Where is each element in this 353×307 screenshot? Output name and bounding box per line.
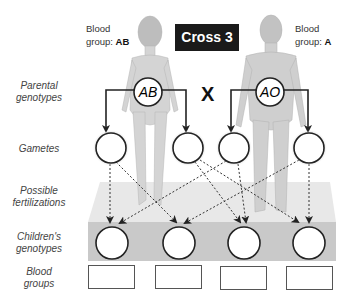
gamete-slot-4[interactable] — [297, 141, 321, 155]
cross-title: Cross 3 — [175, 24, 239, 51]
gamete-slot-1[interactable] — [99, 141, 123, 155]
mother-genotype: AB — [134, 84, 162, 100]
label-line: group: A — [295, 35, 331, 48]
gamete-slot-3[interactable] — [222, 141, 246, 155]
father-blood-label: Blood group: A — [295, 22, 331, 48]
label-prefix: group: — [295, 36, 325, 47]
label-line: group: AB — [86, 35, 129, 48]
label-prefix: group: — [86, 36, 116, 47]
blood-group-box-2[interactable] — [155, 265, 202, 289]
platform-top — [88, 182, 336, 222]
child-genotype-slot-1[interactable] — [100, 236, 124, 250]
mother-blood-label: Blood group: AB — [86, 22, 129, 48]
blood-group-box-4[interactable] — [286, 266, 333, 290]
label-line: Blood — [295, 22, 331, 35]
gamete-slot-2[interactable] — [176, 141, 200, 155]
father-genotype: AO — [256, 84, 284, 100]
father-blood-group: A — [325, 36, 332, 47]
blood-group-box-3[interactable] — [220, 266, 267, 290]
mother-blood-group: AB — [116, 36, 130, 47]
child-genotype-slot-2[interactable] — [167, 236, 191, 250]
child-genotype-slot-3[interactable] — [232, 236, 256, 250]
child-genotype-slot-4[interactable] — [297, 236, 321, 250]
label-line: Blood — [86, 22, 129, 35]
cross-symbol: X — [201, 84, 214, 104]
gamete-circles — [93, 130, 327, 166]
blood-group-box-1[interactable] — [88, 265, 135, 289]
